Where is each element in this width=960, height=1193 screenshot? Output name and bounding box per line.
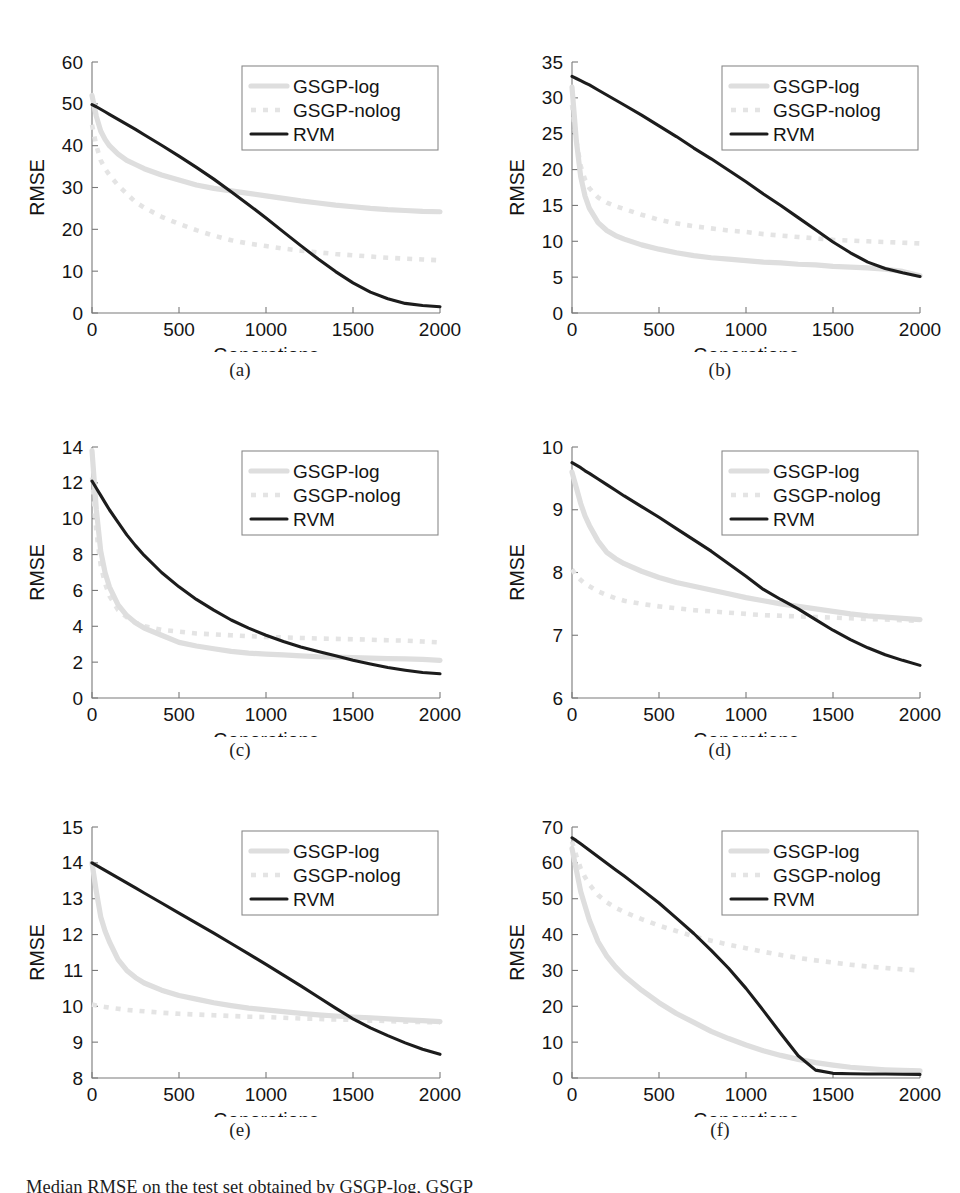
y-tick-label: 40 <box>62 135 83 156</box>
x-tick-label: 2000 <box>899 704 941 725</box>
y-tick-label: 20 <box>62 219 83 240</box>
y-tick-label: 70 <box>542 817 563 838</box>
y-tick-label: 60 <box>542 852 563 873</box>
y-tick-label: 50 <box>62 93 83 114</box>
y-tick-label: 10 <box>62 996 83 1017</box>
x-tick-label: 1000 <box>725 319 767 340</box>
x-tick-label: 500 <box>163 319 195 340</box>
y-tick-label: 30 <box>542 960 563 981</box>
y-tick-label: 60 <box>62 52 83 73</box>
x-tick-label: 0 <box>87 1084 98 1105</box>
legend-label-rvm: RVM <box>293 124 335 145</box>
legend-label-gsgp-log: GSGP-log <box>293 841 380 862</box>
x-axis-title: Generations <box>213 1109 319 1117</box>
legend-label-gsgp-nolog: GSGP-nolog <box>293 485 401 506</box>
y-tick-label: 8 <box>72 1068 83 1089</box>
chart-panel-e: 891011121314150500100015002000Generation… <box>0 765 480 1145</box>
y-tick-label: 30 <box>542 87 563 108</box>
x-tick-label: 1000 <box>245 704 287 725</box>
y-tick-label: 12 <box>62 924 83 945</box>
x-axis-title: Generations <box>213 729 319 737</box>
figure-caption: Median RMSE on the test set obtained by … <box>26 1176 934 1193</box>
legend-label-gsgp-nolog: GSGP-nolog <box>773 485 881 506</box>
x-tick-label: 1000 <box>245 319 287 340</box>
legend-label-gsgp-nolog: GSGP-nolog <box>293 100 401 121</box>
y-tick-label: 14 <box>62 852 84 873</box>
plot-area-f: 0102030405060700500100015002000Generatio… <box>480 765 960 1117</box>
x-tick-label: 1000 <box>245 1084 287 1105</box>
y-tick-label: 10 <box>62 261 83 282</box>
y-axis-title: RMSE <box>26 924 48 980</box>
y-axis-title: RMSE <box>506 924 528 980</box>
chart-panel-b: 051015202530350500100015002000Generation… <box>480 0 960 385</box>
x-tick-label: 500 <box>163 1084 195 1105</box>
x-tick-label: 2000 <box>899 1084 941 1105</box>
plot-area-e: 891011121314150500100015002000Generation… <box>0 765 480 1117</box>
panel-label-d: (d) <box>480 739 960 761</box>
y-tick-label: 6 <box>552 688 563 709</box>
chart-panel-f: 0102030405060700500100015002000Generatio… <box>480 765 960 1145</box>
y-tick-label: 25 <box>542 123 563 144</box>
legend-label-gsgp-nolog: GSGP-nolog <box>773 100 881 121</box>
plot-area-b: 051015202530350500100015002000Generation… <box>480 0 960 352</box>
x-tick-label: 500 <box>643 319 675 340</box>
y-tick-label: 9 <box>72 1032 83 1053</box>
y-tick-label: 35 <box>542 52 563 73</box>
x-tick-label: 500 <box>163 704 195 725</box>
plot-area-d: 6789100500100015002000GenerationsRMSEGSG… <box>480 385 960 737</box>
plot-area-c: 024681012140500100015002000GenerationsRM… <box>0 385 480 737</box>
x-tick-label: 0 <box>567 704 578 725</box>
y-tick-label: 11 <box>63 960 83 981</box>
y-tick-label: 0 <box>552 1068 563 1089</box>
y-tick-label: 4 <box>72 616 83 637</box>
legend-label-gsgp-log: GSGP-log <box>773 76 860 97</box>
legend-label-rvm: RVM <box>773 889 815 910</box>
x-axis-title: Generations <box>693 344 799 352</box>
y-tick-label: 10 <box>62 508 83 529</box>
chart-panel-d: 6789100500100015002000GenerationsRMSEGSG… <box>480 385 960 765</box>
y-tick-label: 30 <box>62 177 83 198</box>
legend-label-rvm: RVM <box>293 509 335 530</box>
x-tick-label: 1000 <box>725 1084 767 1105</box>
y-tick-label: 9 <box>552 499 563 520</box>
x-tick-label: 0 <box>87 704 98 725</box>
panel-label-f: (f) <box>480 1119 960 1141</box>
y-tick-label: 40 <box>542 924 563 945</box>
y-tick-label: 50 <box>542 888 563 909</box>
legend-label-gsgp-log: GSGP-log <box>773 461 860 482</box>
legend-label-gsgp-nolog: GSGP-nolog <box>293 865 401 886</box>
legend-label-gsgp-log: GSGP-log <box>293 461 380 482</box>
x-tick-label: 1500 <box>332 704 374 725</box>
legend-label-gsgp-log: GSGP-log <box>293 76 380 97</box>
y-tick-label: 6 <box>72 580 83 601</box>
y-axis-title: RMSE <box>506 159 528 215</box>
x-tick-label: 1500 <box>812 1084 854 1105</box>
panel-label-b: (b) <box>480 359 960 381</box>
y-tick-label: 2 <box>72 652 83 673</box>
panel-label-e: (e) <box>0 1119 480 1141</box>
y-tick-label: 10 <box>542 231 563 252</box>
y-tick-label: 8 <box>552 562 563 583</box>
y-tick-label: 15 <box>542 195 563 216</box>
y-tick-label: 0 <box>72 303 83 324</box>
y-tick-label: 0 <box>72 688 83 709</box>
y-axis-title: RMSE <box>26 544 48 600</box>
y-tick-label: 20 <box>542 159 563 180</box>
y-tick-label: 10 <box>542 437 563 458</box>
panel-label-c: (c) <box>0 739 480 761</box>
x-tick-label: 2000 <box>419 704 461 725</box>
x-axis-title: Generations <box>693 729 799 737</box>
y-tick-label: 8 <box>72 544 83 565</box>
x-tick-label: 0 <box>567 319 578 340</box>
y-axis-title: RMSE <box>506 544 528 600</box>
x-axis-title: Generations <box>213 344 319 352</box>
x-axis-title: Generations <box>693 1109 799 1117</box>
chart-panel-c: 024681012140500100015002000GenerationsRM… <box>0 385 480 765</box>
y-axis-title: RMSE <box>26 159 48 215</box>
x-tick-label: 1500 <box>332 319 374 340</box>
panel-label-a: (a) <box>0 359 480 381</box>
y-tick-label: 0 <box>552 303 563 324</box>
legend-label-gsgp-nolog: GSGP-nolog <box>773 865 881 886</box>
x-tick-label: 0 <box>567 1084 578 1105</box>
y-tick-label: 15 <box>62 817 83 838</box>
